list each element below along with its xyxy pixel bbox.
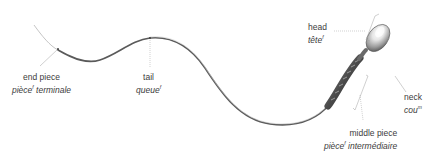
label-neck: neck coum bbox=[404, 92, 422, 115]
label-end-piece-en: end piece bbox=[12, 72, 71, 82]
label-head-fr: têtef bbox=[308, 32, 327, 45]
tail-segment bbox=[58, 38, 330, 125]
label-end-piece: end piece piècef terminale bbox=[12, 72, 71, 95]
label-head: head têtef bbox=[308, 22, 327, 45]
end-piece-segment bbox=[34, 25, 58, 50]
label-middle-piece: middle piece piècef intermédiaire bbox=[324, 128, 397, 151]
label-middle-piece-fr: piècef intermédiaire bbox=[324, 138, 397, 151]
label-tail-fr: queuef bbox=[136, 82, 161, 95]
label-head-en: head bbox=[308, 22, 327, 32]
label-neck-en: neck bbox=[404, 92, 422, 102]
label-tail: tail queuef bbox=[136, 72, 161, 95]
sperm-diagram: end piece piècef terminale tail queuef h… bbox=[0, 0, 427, 152]
label-neck-fr: coum bbox=[404, 102, 422, 115]
label-middle-piece-en: middle piece bbox=[324, 128, 397, 138]
label-end-piece-fr: piècef terminale bbox=[12, 82, 71, 95]
label-tail-en: tail bbox=[136, 72, 161, 82]
